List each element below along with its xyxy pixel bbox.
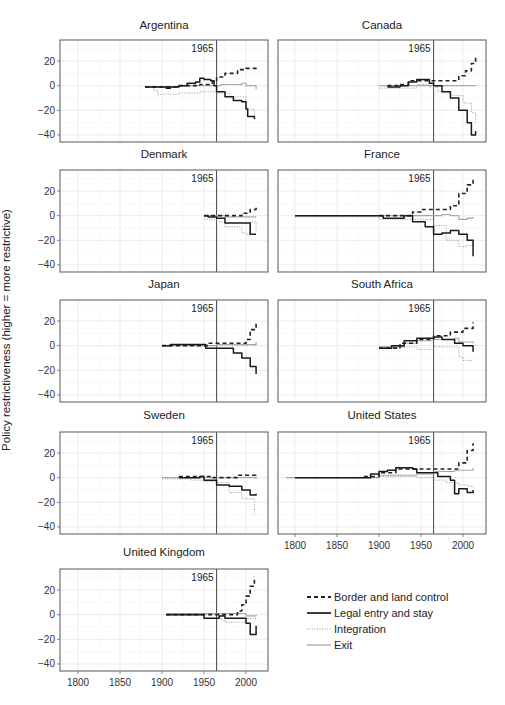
legend-label: Border and land control	[334, 591, 448, 603]
x-tick-label: 1800	[67, 677, 90, 688]
x-tick-label: 1850	[109, 677, 132, 688]
series-legal	[166, 615, 256, 635]
y-tick-label: −20	[38, 365, 55, 376]
panel-frame	[278, 40, 486, 142]
panel-title: Canada	[362, 19, 403, 31]
y-tick-label: 0	[49, 609, 55, 620]
annotation-1965: 1965	[408, 435, 431, 446]
x-tick-label: 1950	[193, 677, 216, 688]
panel-united-states: United States196518001850190019502000	[278, 409, 486, 551]
panel-frame	[60, 170, 268, 272]
legend-item-exit: Exit	[307, 639, 352, 651]
y-tick-label: 0	[49, 80, 55, 91]
panel-united-kingdom: United Kingdom1965200−20−401800185019001…	[38, 546, 268, 688]
panel-title: United States	[347, 409, 416, 421]
y-tick-label: 20	[44, 448, 56, 459]
y-tick-label: 20	[44, 56, 56, 67]
y-tick-label: −20	[38, 634, 55, 645]
series-integration	[295, 217, 473, 247]
annotation-1965: 1965	[408, 173, 431, 184]
panel-title: United Kingdom	[123, 546, 205, 558]
panel-denmark: Denmark1965200−20−40	[38, 148, 268, 272]
series-border	[204, 206, 256, 216]
panel-frame	[60, 300, 268, 402]
series-legal	[204, 216, 256, 234]
x-tick-label: 1950	[410, 540, 433, 551]
x-tick-label: 1900	[368, 540, 391, 551]
series-border	[379, 322, 473, 348]
legend-label: Legal entry and stay	[334, 607, 434, 619]
x-tick-label: 1800	[284, 540, 307, 551]
series-border	[162, 323, 256, 345]
panel-title: South Africa	[351, 278, 414, 290]
panel-frame	[278, 300, 486, 402]
x-tick-label: 1850	[326, 540, 349, 551]
series-integration	[145, 87, 254, 119]
y-tick-label: −40	[38, 521, 55, 532]
y-tick-label: 0	[49, 472, 55, 483]
annotation-1965: 1965	[191, 43, 214, 54]
panel-japan: Japan1965200−20−40	[38, 278, 268, 402]
y-tick-label: −40	[38, 129, 55, 140]
x-tick-label: 2000	[235, 677, 258, 688]
y-tick-label: −40	[38, 658, 55, 669]
annotation-1965: 1965	[191, 303, 214, 314]
panel-title: Denmark	[141, 148, 188, 160]
y-tick-label: 20	[44, 585, 56, 596]
annotation-1965: 1965	[191, 173, 214, 184]
series-integration	[379, 84, 476, 122]
legend-item-integration: Integration	[307, 623, 386, 635]
panel-canada: Canada1965	[278, 19, 486, 142]
x-tick-label: 1900	[151, 677, 174, 688]
panel-frame	[278, 170, 486, 272]
small-multiples-chart: Argentina1965200−20−40Canada1965Denmark1…	[0, 0, 505, 705]
panel-france: France1965	[278, 148, 486, 272]
legend-item-legal: Legal entry and stay	[307, 607, 434, 619]
panel-frame	[60, 432, 268, 534]
series-integration	[204, 219, 256, 234]
y-tick-label: 0	[49, 340, 55, 351]
legend-label: Exit	[334, 639, 352, 651]
panel-title: France	[364, 148, 400, 160]
legend-label: Integration	[334, 623, 386, 635]
annotation-1965: 1965	[191, 572, 214, 583]
panels-group: Argentina1965200−20−40Canada1965Denmark1…	[38, 19, 486, 688]
y-tick-label: −20	[38, 497, 55, 508]
legend-item-border: Border and land control	[307, 591, 448, 603]
y-tick-label: 20	[44, 186, 56, 197]
series-legal	[162, 344, 256, 374]
series-legal	[387, 79, 475, 134]
panel-title: Sweden	[143, 409, 185, 421]
x-tick-label: 2000	[452, 540, 475, 551]
series-border	[387, 56, 475, 86]
y-axis-title: Policy restrictiveness (higher = more re…	[0, 209, 12, 451]
series-border	[379, 179, 473, 216]
annotation-1965: 1965	[408, 43, 431, 54]
figure-caption-cropped	[90, 693, 420, 705]
y-tick-label: −40	[38, 259, 55, 270]
panel-frame	[60, 569, 268, 671]
annotation-1965: 1965	[408, 303, 431, 314]
y-tick-label: 0	[49, 210, 55, 221]
y-tick-label: −20	[38, 235, 55, 246]
panel-south-africa: South Africa1965	[278, 278, 486, 402]
panel-sweden: Sweden1965200−20−40	[38, 409, 268, 534]
panel-title: Japan	[148, 278, 179, 290]
y-tick-label: 20	[44, 316, 56, 327]
panel-title: Argentina	[139, 19, 189, 31]
panel-argentina: Argentina1965200−20−40	[38, 19, 268, 142]
legend: Border and land controlLegal entry and s…	[307, 591, 448, 651]
series-integration	[162, 479, 254, 515]
y-tick-label: −40	[38, 389, 55, 400]
y-tick-label: −20	[38, 105, 55, 116]
series-integration	[379, 347, 473, 361]
annotation-1965: 1965	[191, 435, 214, 446]
panel-frame	[60, 40, 268, 142]
series-exit	[162, 478, 256, 479]
